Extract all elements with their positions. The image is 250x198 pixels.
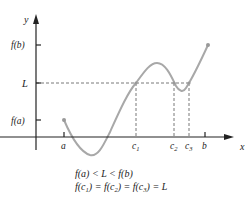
- fb-label: f(b): [11, 40, 25, 51]
- c3-label: c3: [185, 141, 193, 152]
- fa-label: f(a): [11, 116, 25, 127]
- x-axis-label: x: [239, 141, 245, 152]
- caption-line-1: f(a) < L < f(b): [75, 168, 133, 180]
- c1-point: [134, 81, 137, 84]
- c1-label: c1: [132, 141, 139, 152]
- L-label: L: [21, 78, 28, 89]
- a-label: a: [61, 141, 66, 151]
- c2-point: [172, 81, 175, 84]
- y-axis-label: y: [23, 14, 29, 25]
- x-axis-arrow-icon: [224, 134, 234, 140]
- ivt-diagram: y x f(b) L f(a) a c1 c2 c3 b f(a) < L < …: [0, 0, 250, 198]
- caption-line-2: f(c1) = f(c2) = f(c3) = L: [75, 181, 168, 193]
- c3-point: [187, 81, 190, 84]
- b-label: b: [202, 141, 207, 151]
- c2-label: c2: [170, 141, 178, 152]
- axes: [0, 22, 225, 150]
- y-axis-arrow-icon: [33, 14, 39, 24]
- start-point: [62, 118, 66, 122]
- end-point: [206, 43, 210, 47]
